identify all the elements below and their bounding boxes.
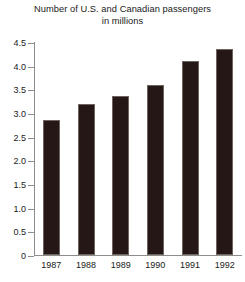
y-tick-label: 2.5 (13, 133, 26, 143)
chart-title-line-2: in millions (0, 15, 245, 27)
x-tick-label-1989: 1989 (111, 260, 131, 270)
bar-1991 (182, 61, 199, 255)
chart-title: Number of U.S. and Canadian passengers i… (0, 3, 245, 27)
bar-1989 (112, 96, 129, 255)
bar-1988 (78, 104, 95, 255)
y-tick-label: 1.0 (13, 204, 26, 214)
y-tick-label: 2.0 (13, 156, 26, 166)
y-tick-label: 1.5 (13, 180, 26, 190)
y-tick-mark (28, 256, 34, 257)
x-tick-label-1991: 1991 (180, 260, 200, 270)
x-tick-label-1988: 1988 (76, 260, 96, 270)
x-axis-line (34, 255, 242, 256)
x-tick-label-1992: 1992 (215, 260, 235, 270)
y-tick-label: 3.0 (13, 109, 26, 119)
y-tick-label: 4.0 (13, 62, 26, 72)
y-tick-label: 4.5 (13, 38, 26, 48)
y-tick-label: 0 (21, 251, 26, 261)
bar-1990 (147, 85, 164, 255)
y-tick-label: 3.5 (13, 85, 26, 95)
x-tick-label-1990: 1990 (145, 260, 165, 270)
chart-title-line-1: Number of U.S. and Canadian passengers (34, 4, 211, 14)
plot-area: 00.51.01.52.02.53.03.54.04.5 (34, 42, 242, 256)
bar-chart: Number of U.S. and Canadian passengers i… (0, 0, 245, 282)
bar-1987 (43, 120, 60, 255)
bar-1992 (216, 49, 233, 255)
y-tick-label: 0.5 (13, 227, 26, 237)
bar-series (34, 42, 242, 255)
x-tick-label-1987: 1987 (41, 260, 61, 270)
